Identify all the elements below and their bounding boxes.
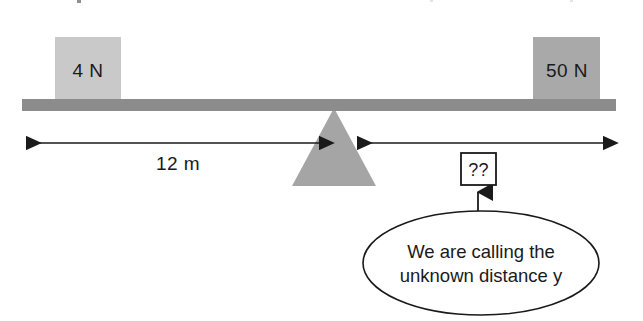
left-weight-label: 4 N xyxy=(72,60,103,81)
diagram-canvas: 4 N 50 N 12 m ?? We are calling the unkn… xyxy=(0,0,643,321)
cropped-text-remnant xyxy=(77,0,573,3)
lever-diagram-figure: 4 N 50 N 12 m ?? We are calling the unkn… xyxy=(0,0,643,321)
beam-bar xyxy=(22,99,616,111)
fulcrum-triangle xyxy=(292,108,376,186)
callout-line-1: We are calling the xyxy=(407,241,555,262)
unknown-distance-box: ?? xyxy=(461,153,496,185)
right-weight-block: 50 N xyxy=(533,37,600,99)
right-weight-label: 50 N xyxy=(546,60,588,81)
callout-bubble: We are calling the unknown distance y xyxy=(363,211,599,315)
callout-line-2: unknown distance y xyxy=(400,265,563,286)
left-weight-block: 4 N xyxy=(55,37,121,99)
left-dimension-label: 12 m xyxy=(156,153,200,174)
left-dimension-arrow: 12 m xyxy=(26,143,319,174)
unknown-box-label: ?? xyxy=(468,160,489,180)
callout-ellipse-outline xyxy=(363,211,599,315)
